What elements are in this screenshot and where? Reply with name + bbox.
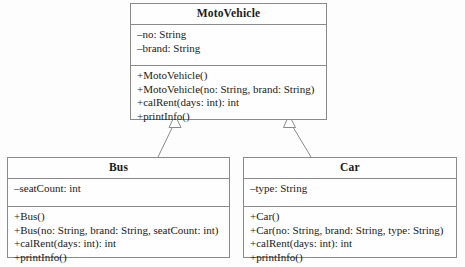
attribute-item: –seatCount: int <box>14 182 223 196</box>
class-box-motovehicle[interactable]: MotoVehicle –no: String –brand: String +… <box>130 3 327 120</box>
method-item: +printInfo() <box>250 251 450 265</box>
uml-class-diagram: MotoVehicle –no: String –brand: String +… <box>0 0 465 267</box>
generalization-line-car <box>293 127 311 157</box>
method-item: +MotoVehicle() <box>137 69 320 83</box>
method-item: +printInfo() <box>137 110 320 124</box>
method-item: +calRent(days: int): int <box>14 237 223 251</box>
method-item: +Car() <box>250 210 450 224</box>
attribute-item: –brand: String <box>137 42 320 56</box>
attribute-item: –type: String <box>250 182 450 196</box>
class-box-bus[interactable]: Bus –seatCount: int +Bus() +Bus(no: Stri… <box>7 157 230 258</box>
method-item: +Bus(no: String, brand: String, seatCoun… <box>14 224 223 238</box>
attributes-compartment-motovehicle: –no: String –brand: String <box>131 25 326 66</box>
method-item: +calRent(days: int): int <box>250 237 450 251</box>
methods-compartment-motovehicle: +MotoVehicle() +MotoVehicle(no: String, … <box>131 66 326 127</box>
method-item: +Bus() <box>14 210 223 224</box>
attribute-item: –no: String <box>137 28 320 42</box>
method-item: +printInfo() <box>14 251 223 265</box>
method-item: +Car(no: String, brand: String, type: St… <box>250 224 450 238</box>
generalization-line-bus <box>158 127 173 157</box>
attributes-compartment-car: –type: String <box>244 179 456 207</box>
attributes-compartment-bus: –seatCount: int <box>8 179 229 207</box>
class-name-motovehicle: MotoVehicle <box>131 4 326 25</box>
class-name-car: Car <box>244 158 456 179</box>
class-name-bus: Bus <box>8 158 229 179</box>
class-box-car[interactable]: Car –type: String +Car() +Car(no: String… <box>243 157 457 258</box>
method-item: +MotoVehicle(no: String, brand: String) <box>137 83 320 97</box>
method-item: +calRent(days: int): int <box>137 96 320 110</box>
methods-compartment-bus: +Bus() +Bus(no: String, brand: String, s… <box>8 207 229 267</box>
methods-compartment-car: +Car() +Car(no: String, brand: String, t… <box>244 207 456 267</box>
